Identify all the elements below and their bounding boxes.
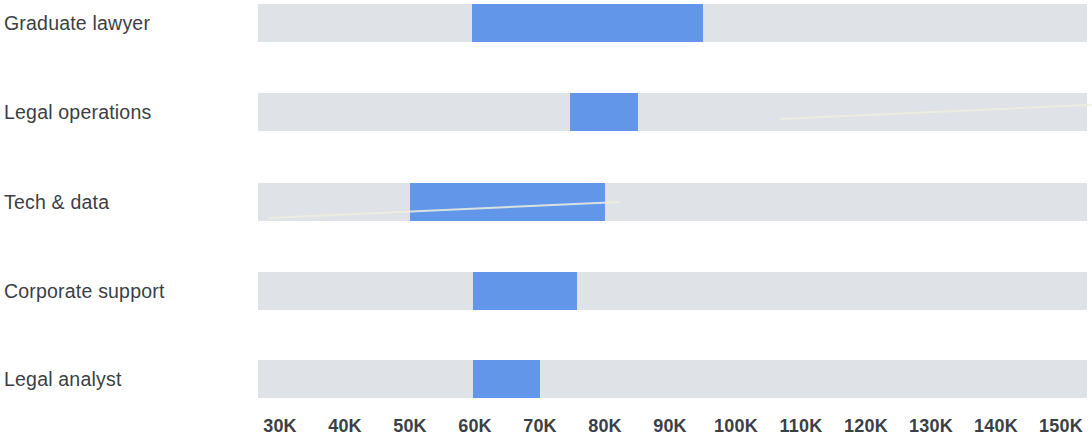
range-bar-legal-operations[interactable] (570, 93, 638, 131)
x-axis-tick-label: 30K (263, 416, 297, 437)
range-bar-legal-analyst[interactable] (473, 360, 540, 398)
x-axis-tick-label: 80K (588, 416, 622, 437)
range-track-corporate-support (258, 272, 1087, 310)
x-axis-tick-label: 40K (328, 416, 362, 437)
category-label-tech-and-data: Tech & data (4, 183, 109, 221)
x-axis-tick-label: 90K (653, 416, 687, 437)
category-label-corporate-support: Corporate support (4, 272, 165, 310)
range-track-legal-analyst (258, 360, 1087, 398)
category-label-legal-analyst: Legal analyst (4, 360, 122, 398)
x-axis-tick-label: 130K (909, 416, 953, 437)
x-axis-tick-label: 120K (844, 416, 888, 437)
category-label-graduate-lawyer: Graduate lawyer (4, 4, 150, 42)
x-axis-tick-label: 110K (780, 416, 823, 437)
category-label-legal-operations: Legal operations (4, 93, 151, 131)
chart-row-corporate-support: Corporate support (0, 272, 1091, 310)
x-axis-tick-label: 100K (714, 416, 758, 437)
x-axis-tick-label: 150K (1039, 416, 1083, 437)
chart-row-legal-operations: Legal operations (0, 93, 1091, 131)
range-bar-tech-and-data[interactable] (410, 183, 605, 221)
range-bar-corporate-support[interactable] (473, 272, 577, 310)
chart-row-graduate-lawyer: Graduate lawyer (0, 4, 1091, 42)
chart-row-legal-analyst: Legal analyst (0, 360, 1091, 398)
range-track-legal-operations (258, 93, 1087, 131)
range-track-tech-and-data (258, 183, 1087, 221)
x-axis-tick-label: 60K (458, 416, 492, 437)
x-axis: 30K40K50K60K70K80K90K100K110K120K130K140… (0, 416, 1091, 440)
x-axis-tick-label: 70K (523, 416, 557, 437)
x-axis-tick-label: 140K (974, 416, 1018, 437)
range-track-graduate-lawyer (258, 4, 1087, 42)
x-axis-tick-label: 50K (393, 416, 427, 437)
chart-row-tech-and-data: Tech & data (0, 183, 1091, 221)
range-bar-graduate-lawyer[interactable] (472, 4, 703, 42)
